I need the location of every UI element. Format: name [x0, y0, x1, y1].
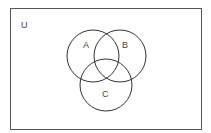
set-b-label: B — [122, 40, 128, 50]
set-a-label: A — [83, 40, 89, 50]
universe-label: U — [21, 20, 28, 30]
set-a-circle — [67, 30, 119, 82]
set-c-label: C — [102, 89, 109, 99]
set-b-circle — [94, 30, 146, 82]
venn-diagram: U A B C — [0, 0, 211, 133]
set-c-circle — [80, 59, 132, 111]
